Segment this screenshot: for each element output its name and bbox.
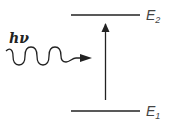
energy-level-diagram: E2 E1 hν (0, 0, 174, 133)
photon-wave (6, 47, 88, 65)
photon-label: hν (9, 30, 29, 46)
energy-level-e2-label: E2 (146, 7, 160, 25)
energy-level-e1-label: E1 (146, 103, 160, 121)
photon-arrowhead-icon (80, 54, 92, 62)
